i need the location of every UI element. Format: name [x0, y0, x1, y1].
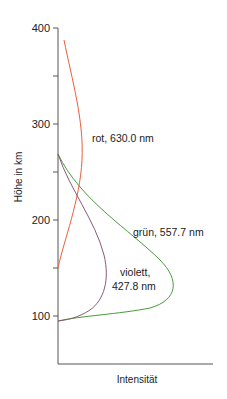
y-tick-label-300: 300 [32, 118, 50, 130]
y-tick-label-400: 400 [32, 22, 50, 34]
label-violet-line1: violett, [120, 266, 150, 278]
aurora-emission-chart: 400 300 200 100 Höhe in km Intensität ro… [0, 0, 227, 399]
y-axis: 400 300 200 100 Höhe in km [13, 22, 58, 364]
y-tick-label-100: 100 [32, 310, 50, 322]
x-axis: Intensität [58, 364, 213, 385]
y-axis-title: Höhe in km [13, 152, 24, 203]
series-violet-428nm [58, 154, 106, 321]
label-violet-line2: 427.8 nm [112, 280, 156, 292]
x-axis-title: Intensität [117, 374, 158, 385]
y-tick-label-200: 200 [32, 214, 50, 226]
label-green: grün, 557.7 nm [133, 226, 204, 238]
label-red: rot, 630.0 nm [92, 132, 154, 144]
series-red-630nm [58, 40, 82, 268]
